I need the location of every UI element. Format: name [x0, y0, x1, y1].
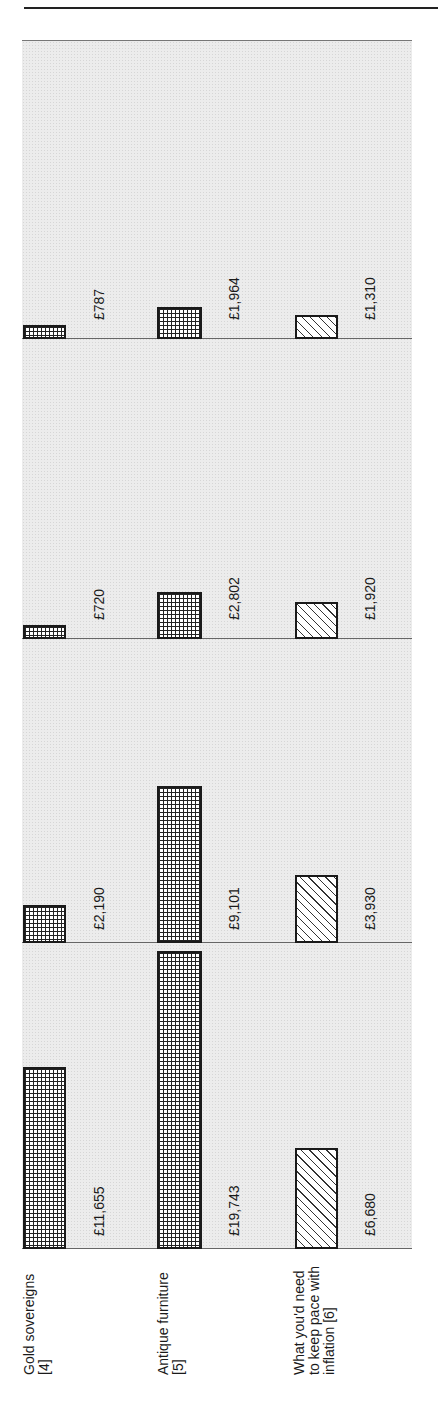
bar-gold-p3: [23, 625, 66, 639]
bar-inflation-p2: [295, 875, 338, 943]
top-rule: [24, 7, 438, 9]
value-label-antique-p1: £19,743: [226, 1185, 242, 1236]
bar-inflation-p1: [295, 1148, 338, 1249]
value-label-gold-p1: £11,655: [91, 1186, 107, 1236]
bar-antique-p4: [157, 307, 202, 339]
bar-antique-p2: [157, 786, 202, 943]
value-label-inflation-p4: £1,310: [362, 277, 378, 320]
value-label-gold-p3: £720: [91, 589, 107, 620]
category-label-gold: Gold sovereigns [4]: [22, 1255, 52, 1375]
bar-inflation-p4: [295, 315, 338, 339]
category-label-antique: Antique furniture [5]: [156, 1255, 186, 1375]
plot-area: [22, 40, 412, 1249]
category-label-inflation: What you'd need to keep pace with inflat…: [292, 1255, 337, 1375]
value-label-inflation-p1: £6,680: [362, 1193, 378, 1236]
value-label-inflation-p2: £3,930: [362, 887, 378, 930]
value-label-antique-p3: £2,802: [226, 577, 242, 620]
bar-gold-p2: [23, 905, 66, 943]
bar-inflation-p3: [295, 602, 338, 639]
panel-2-baseline: [22, 942, 412, 943]
value-label-gold-p4: £787: [91, 289, 107, 320]
bar-antique-p3: [157, 592, 202, 639]
bar-antique-p1: [157, 951, 202, 1249]
bar-gold-p1: [23, 1067, 66, 1249]
panel-3-baseline: [22, 638, 412, 639]
panel-4-baseline: [22, 338, 412, 339]
value-label-inflation-p3: £1,920: [362, 577, 378, 620]
panel-1-baseline: [22, 1248, 412, 1249]
value-label-gold-p2: £2,190: [91, 887, 107, 930]
bar-gold-p4: [23, 325, 66, 339]
value-label-antique-p4: £1,964: [226, 277, 242, 320]
value-label-antique-p2: £9,101: [226, 887, 242, 930]
